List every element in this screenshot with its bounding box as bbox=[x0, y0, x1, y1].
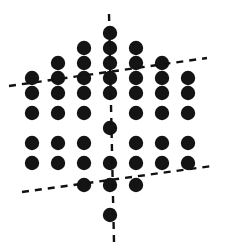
lattice-dot bbox=[103, 156, 117, 170]
lattice-dot bbox=[181, 71, 195, 85]
lattice-dot bbox=[25, 156, 39, 170]
lattice-dot bbox=[129, 41, 143, 55]
lattice-dot bbox=[77, 86, 91, 100]
lattice-dot bbox=[77, 71, 91, 85]
lattice-dot bbox=[51, 136, 65, 150]
lattice-dot bbox=[51, 106, 65, 120]
lattice-dot bbox=[129, 71, 143, 85]
lattice-dot bbox=[155, 71, 169, 85]
lattice-dot bbox=[51, 156, 65, 170]
lattice-dot bbox=[77, 106, 91, 120]
lattice-dot bbox=[77, 156, 91, 170]
lattice-dot bbox=[129, 106, 143, 120]
lattice-dot bbox=[25, 106, 39, 120]
lattice-dot bbox=[103, 208, 117, 222]
lattice-dot bbox=[77, 41, 91, 55]
lattice-dot bbox=[155, 86, 169, 100]
lattice-dot bbox=[77, 56, 91, 70]
lattice-dot bbox=[25, 136, 39, 150]
lattice-dot bbox=[103, 121, 117, 135]
lattice-dot bbox=[129, 136, 143, 150]
lattice-dot bbox=[155, 136, 169, 150]
lattice-dot bbox=[129, 86, 143, 100]
lattice-dot bbox=[51, 56, 65, 70]
lattice-dot bbox=[181, 106, 195, 120]
dot-lattice-figure bbox=[0, 0, 232, 249]
lattice-dot bbox=[51, 86, 65, 100]
lattice-dot bbox=[129, 178, 143, 192]
lattice-dot bbox=[25, 86, 39, 100]
lattice-dot bbox=[181, 86, 195, 100]
lattice-dot bbox=[155, 156, 169, 170]
lattice-dot bbox=[77, 136, 91, 150]
lattice-canvas bbox=[0, 0, 232, 249]
lattice-dot bbox=[129, 156, 143, 170]
lattice-dot bbox=[155, 106, 169, 120]
lattice-dot bbox=[181, 136, 195, 150]
